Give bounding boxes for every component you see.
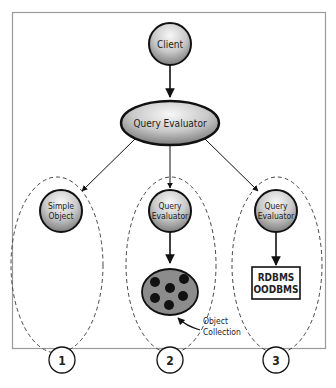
object-dot: [178, 291, 188, 301]
query-evaluator-2-node: Query Evaluator: [149, 190, 191, 232]
group-number-3-label: 3: [272, 354, 280, 368]
object-dot: [165, 283, 175, 293]
object-dot: [150, 277, 160, 287]
object-dot: [150, 293, 160, 303]
database-label-2: OODBMS: [253, 284, 298, 295]
query-evaluator-main-node: Query Evaluator: [121, 101, 219, 145]
annotation-label-2: Collection: [203, 327, 241, 337]
client-node: Client: [149, 23, 191, 65]
group-number-2: 2: [157, 347, 183, 373]
query-evaluator-3-label-1: Query: [264, 201, 288, 211]
group-number-2-label: 2: [166, 354, 174, 368]
group-number-1-label: 1: [58, 354, 66, 368]
simple-object-label-1: Simple: [48, 201, 74, 211]
client-label: Client: [157, 39, 184, 50]
object-collection: [142, 269, 198, 315]
query-evaluator-2-label-1: Query: [158, 201, 182, 211]
database-box: RDBMS OODBMS: [252, 267, 300, 299]
database-label-1: RDBMS: [258, 272, 295, 283]
simple-object-node: Simple Object: [40, 190, 82, 232]
object-dot: [179, 274, 189, 284]
query-evaluator-diagram: Client Query Evaluator Simple Object Que…: [0, 0, 336, 388]
query-evaluator-3-label-2: Evaluator: [258, 211, 295, 221]
query-evaluator-3-node: Query Evaluator: [255, 190, 297, 232]
query-evaluator-2-label-2: Evaluator: [152, 211, 189, 221]
annotation-label-1: Object: [203, 316, 228, 326]
group-number-1: 1: [49, 347, 75, 373]
object-dot: [164, 300, 174, 310]
group-number-3: 3: [263, 347, 289, 373]
simple-object-label-2: Object: [49, 211, 74, 221]
query-evaluator-main-label: Query Evaluator: [133, 118, 206, 129]
